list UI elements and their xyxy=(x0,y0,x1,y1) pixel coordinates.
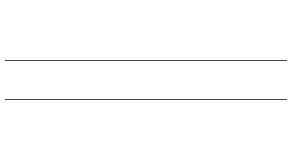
should-be-scale-line xyxy=(5,99,287,100)
are-scale-line xyxy=(5,60,287,61)
